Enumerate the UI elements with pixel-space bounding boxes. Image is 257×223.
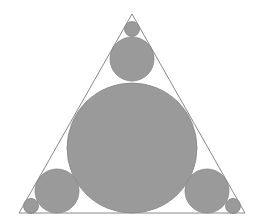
central-circle bbox=[67, 83, 197, 213]
diagram-canvas bbox=[0, 0, 257, 223]
circles-group bbox=[24, 22, 241, 214]
triangle-circle-diagram bbox=[0, 0, 257, 223]
top-middle-circle bbox=[110, 37, 154, 81]
bottom-right-medium-circle bbox=[185, 169, 229, 213]
bottom-left-medium-circle bbox=[35, 169, 79, 213]
